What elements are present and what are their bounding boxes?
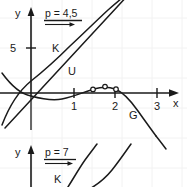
figure-svg: y x 5 1 2 3 p = 4,5 K U G — [0, 0, 187, 187]
x-tick-label-2: 2 — [112, 100, 118, 112]
x-tick-label-1: 1 — [71, 100, 77, 112]
curve-label-g-top: G — [129, 109, 138, 121]
marked-point-1 — [91, 87, 96, 92]
math-figure: y x 5 1 2 3 p = 4,5 K U G — [0, 0, 187, 187]
marked-point-2 — [103, 84, 108, 89]
y-tick-label-5: 5 — [10, 42, 16, 54]
param-label-bottom: p = 7 — [45, 146, 69, 158]
y-axis-label-top: y — [15, 7, 21, 19]
curve-label-k-top: K — [52, 42, 60, 54]
marked-point-3 — [114, 87, 119, 92]
x-tick-label-3: 3 — [154, 100, 160, 112]
y-axis-label-bottom: y — [15, 146, 21, 158]
x-axis-label-top: x — [173, 97, 179, 109]
curve-label-k-bottom: K — [54, 173, 62, 185]
curve-label-u-top: U — [68, 65, 76, 77]
param-label-top: p = 4,5 — [45, 7, 78, 19]
